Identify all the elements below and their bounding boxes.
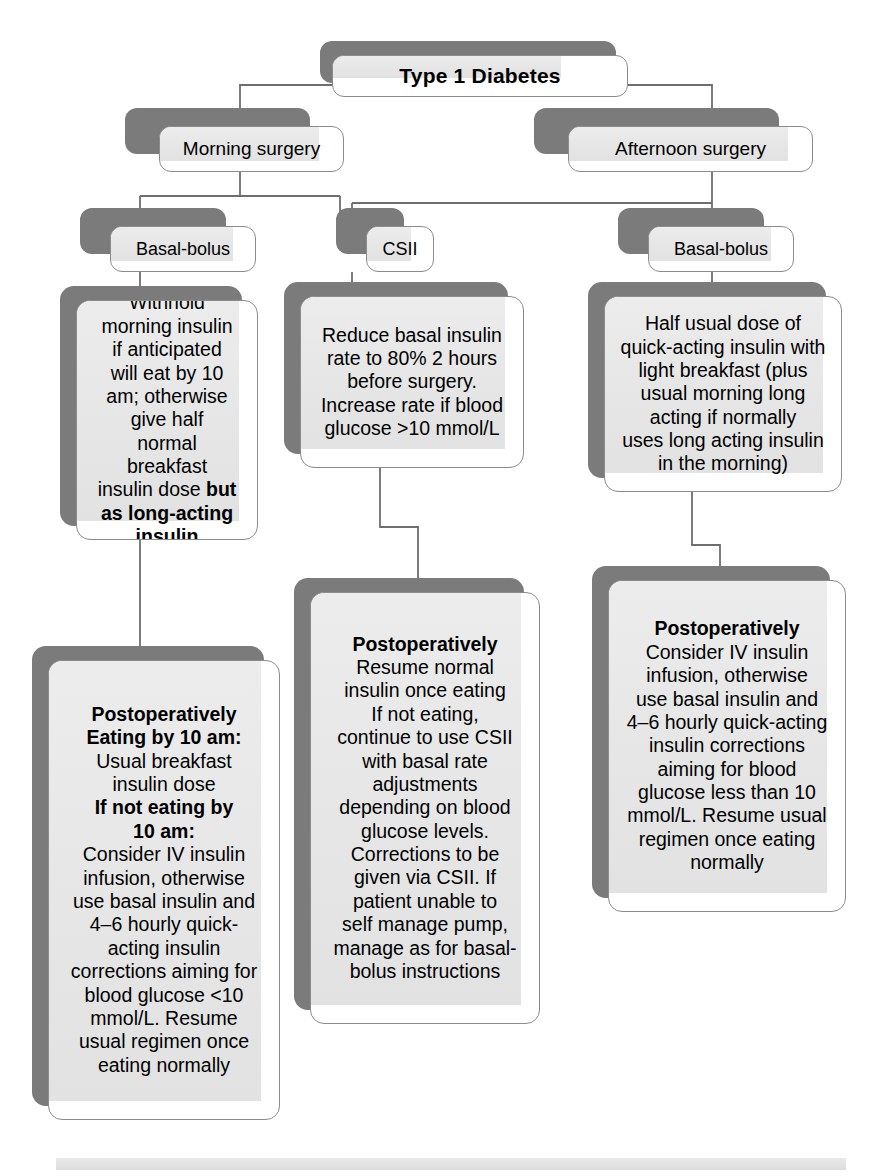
node-face: PostoperativelyResume normalinsulin once… bbox=[310, 592, 540, 1024]
node-type-1-diabetes[interactable]: Type 1 Diabetes bbox=[332, 55, 628, 97]
footer-rule bbox=[56, 1158, 846, 1170]
node-label: Basal-bolus bbox=[130, 239, 236, 260]
node-face: CSII bbox=[366, 226, 434, 272]
node-afternoon-basal-bolus-preop[interactable]: Half usual dose ofquick-acting insulin w… bbox=[604, 296, 842, 492]
node-afternoon-surgery[interactable]: Afternoon surgery bbox=[568, 126, 813, 172]
node-face: Morning surgery bbox=[159, 126, 344, 172]
node-regimen-csii[interactable]: CSII bbox=[366, 226, 434, 272]
flowchart-canvas: Type 1 Diabetes Morning surgery Afternoo… bbox=[0, 0, 876, 1176]
node-face: PostoperativelyConsider IV insulininfusi… bbox=[608, 580, 846, 912]
node-label: Afternoon surgery bbox=[609, 138, 772, 160]
node-text: PostoperativelyConsider IV insulininfusi… bbox=[623, 617, 832, 874]
node-label: Morning surgery bbox=[177, 138, 326, 160]
node-face: Half usual dose ofquick-acting insulin w… bbox=[604, 296, 842, 492]
node-csii-preop[interactable]: Reduce basal insulinrate to 80% 2 hoursb… bbox=[300, 296, 524, 468]
node-text: Half usual dose ofquick-acting insulin w… bbox=[617, 312, 830, 476]
node-regimen-basal-bolus-afternoon[interactable]: Basal-bolus bbox=[648, 226, 794, 272]
node-text: Reduce basal insulinrate to 80% 2 hoursb… bbox=[317, 324, 507, 441]
node-face: Type 1 Diabetes bbox=[332, 55, 628, 97]
node-text: PostoperativelyResume normalinsulin once… bbox=[329, 633, 520, 984]
node-morning-basal-bolus-preop[interactable]: Withholdmorning insulinif anticipatedwil… bbox=[76, 300, 258, 540]
node-face: Basal-bolus bbox=[648, 226, 794, 272]
node-text: Withholdmorning insulinif anticipatedwil… bbox=[94, 300, 241, 540]
node-face: Afternoon surgery bbox=[568, 126, 813, 172]
node-label: Type 1 Diabetes bbox=[393, 64, 566, 88]
node-face: Basal-bolus bbox=[110, 226, 256, 272]
node-regimen-basal-bolus-morning[interactable]: Basal-bolus bbox=[110, 226, 256, 272]
node-face: Reduce basal insulinrate to 80% 2 hoursb… bbox=[300, 296, 524, 468]
node-morning-surgery[interactable]: Morning surgery bbox=[159, 126, 344, 172]
node-face: PostoperativelyEating by 10 am:Usual bre… bbox=[48, 660, 280, 1120]
node-text: PostoperativelyEating by 10 am:Usual bre… bbox=[67, 703, 261, 1077]
node-csii-postop[interactable]: PostoperativelyResume normalinsulin once… bbox=[310, 592, 540, 1024]
node-morning-basal-bolus-postop[interactable]: PostoperativelyEating by 10 am:Usual bre… bbox=[48, 660, 280, 1120]
node-label: Basal-bolus bbox=[668, 239, 774, 260]
node-label: CSII bbox=[376, 239, 423, 260]
node-face: Withholdmorning insulinif anticipatedwil… bbox=[76, 300, 258, 540]
node-afternoon-basal-bolus-postop[interactable]: PostoperativelyConsider IV insulininfusi… bbox=[608, 580, 846, 912]
